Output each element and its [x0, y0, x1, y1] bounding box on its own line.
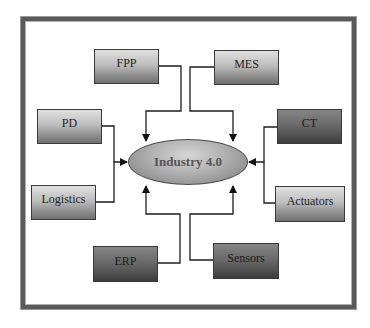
edge-actuators — [249, 162, 275, 203]
node-ct: CT — [277, 109, 342, 144]
node-actuators: Actuators — [275, 186, 345, 222]
node-pd-label: PD — [62, 116, 77, 131]
node-erp-label: ERP — [114, 254, 136, 269]
node-sensors: Sensors — [213, 243, 279, 279]
node-mes-label: MES — [234, 57, 259, 72]
hub-industry-4-0: Industry 4.0 — [128, 139, 248, 185]
hub-label: Industry 4.0 — [154, 154, 222, 170]
node-fpp-label: FPP — [116, 56, 136, 71]
node-ct-label: CT — [302, 116, 317, 131]
node-pd: PD — [37, 109, 102, 144]
node-sensors-label: Sensors — [227, 251, 264, 266]
node-actuators-label: Actuators — [287, 194, 334, 209]
node-logistics-label: Logistics — [42, 192, 86, 207]
edge-logistics — [95, 162, 127, 202]
edge-ct — [264, 127, 277, 162]
node-fpp: FPP — [94, 49, 159, 84]
edge-pd — [101, 126, 114, 162]
node-mes: MES — [214, 50, 279, 85]
node-erp: ERP — [93, 246, 158, 282]
node-logistics: Logistics — [31, 185, 96, 220]
